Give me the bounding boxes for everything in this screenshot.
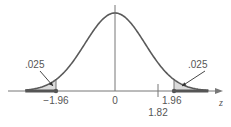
tick-label: −1.96 xyxy=(43,95,69,106)
x-axis-label: z xyxy=(218,97,223,108)
critical-point-right xyxy=(172,89,176,93)
area-arrow-right xyxy=(182,71,205,86)
tick-label: 1.96 xyxy=(162,95,182,106)
area-label-right: .025 xyxy=(188,59,208,70)
critical-point-left xyxy=(54,89,58,93)
marker-label: 1.82 xyxy=(148,107,168,118)
x-axis-arrowhead xyxy=(215,88,223,94)
area-label-left: .025 xyxy=(25,59,45,70)
normal-curve xyxy=(25,13,208,90)
tick-label: 0 xyxy=(112,95,118,106)
normal-curve-diagram: .025.025−1.9601.961.82 z xyxy=(0,0,231,127)
